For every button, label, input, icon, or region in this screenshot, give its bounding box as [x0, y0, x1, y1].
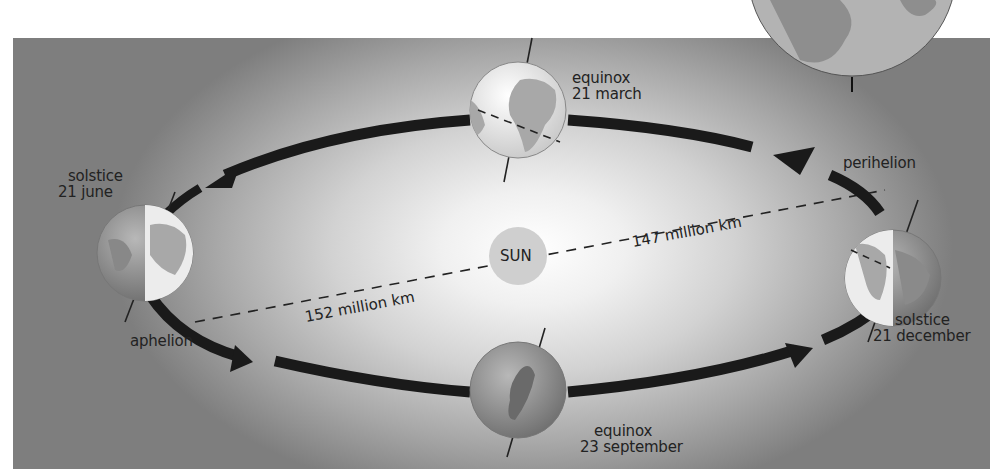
event-date: 21 march: [572, 86, 642, 102]
label-solstice-december: solstice 21 december: [873, 312, 970, 344]
event-name: equinox: [580, 423, 683, 439]
globe-equinox-march-icon: [470, 38, 566, 182]
globe-equinox-september-icon: [470, 328, 566, 457]
label-equinox-september: equinox 23 september: [580, 423, 683, 455]
event-date: 23 september: [580, 439, 683, 455]
event-name: equinox: [572, 70, 642, 86]
label-solstice-june: solstice 21 june: [58, 168, 123, 200]
sun-label: SUN: [500, 247, 532, 265]
label-perihelion: perihelion: [843, 155, 916, 171]
label-equinox-march: equinox 21 march: [572, 70, 642, 102]
large-globe-icon: [748, 0, 956, 92]
event-name: solstice: [58, 168, 123, 184]
event-name: solstice: [873, 312, 970, 328]
event-date: 21 june: [58, 184, 123, 200]
label-aphelion: aphelion: [130, 333, 193, 349]
event-date: 21 december: [873, 328, 970, 344]
orbit-diagram: [0, 0, 994, 474]
